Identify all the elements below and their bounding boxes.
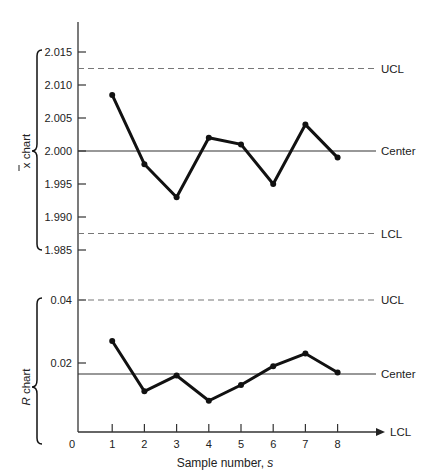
y-tick-label: 2.010 bbox=[44, 79, 72, 91]
control-chart: x chart R chart 2.0152.0102.0052.0001.99… bbox=[0, 0, 437, 475]
xbar-brace bbox=[32, 50, 42, 250]
data-point bbox=[109, 92, 115, 98]
data-point bbox=[270, 363, 276, 369]
svg-text:R chart: R chart bbox=[20, 368, 32, 406]
x-tick-label: 8 bbox=[335, 438, 341, 450]
data-point bbox=[109, 338, 115, 344]
svg-text:x chart: x chart bbox=[20, 133, 32, 168]
xbar-chart: 2.0152.0102.0052.0001.9951.9901.985UCLCe… bbox=[44, 46, 415, 256]
y-tick-label: 2.000 bbox=[44, 145, 72, 157]
y-tick-label: 0.04 bbox=[51, 294, 72, 306]
r-brace bbox=[32, 298, 42, 444]
y-tick-label: 1.990 bbox=[44, 211, 72, 223]
y-tick-label: 1.985 bbox=[44, 244, 72, 256]
center-label: Center bbox=[381, 368, 416, 380]
y-tick-label: 2.015 bbox=[44, 46, 72, 58]
data-point bbox=[302, 351, 308, 357]
xbar-chart-label: x chart bbox=[19, 133, 32, 171]
data-point bbox=[174, 194, 180, 200]
data-line bbox=[112, 95, 337, 197]
x-tick-label: 3 bbox=[174, 438, 180, 450]
r-chart-label: R chart bbox=[20, 368, 32, 406]
data-point bbox=[141, 161, 147, 167]
data-point bbox=[302, 122, 308, 128]
ucl-label: UCL bbox=[381, 294, 405, 306]
x-tick-label: 2 bbox=[141, 438, 147, 450]
data-point bbox=[238, 382, 244, 388]
data-point bbox=[238, 141, 244, 147]
r-chart: 0.040.02UCLCenterLCL12345678 bbox=[51, 294, 416, 450]
x-axis-arrow-icon bbox=[376, 428, 385, 436]
x-tick-label: 7 bbox=[302, 438, 308, 450]
lcl-label: LCL bbox=[390, 426, 412, 438]
data-point bbox=[141, 388, 147, 394]
y-tick-label: 2.005 bbox=[44, 112, 72, 124]
center-label: Center bbox=[381, 145, 416, 157]
data-point bbox=[335, 369, 341, 375]
data-point bbox=[206, 135, 212, 141]
x-tick-label: 4 bbox=[206, 438, 212, 450]
x-tick-label: 1 bbox=[109, 438, 115, 450]
data-point bbox=[206, 398, 212, 404]
x-tick-label: 5 bbox=[238, 438, 244, 450]
x-axis-title: Sample number, s bbox=[177, 456, 274, 470]
data-point bbox=[335, 155, 341, 161]
data-point bbox=[270, 181, 276, 187]
origin-label: 0 bbox=[69, 438, 75, 450]
y-tick-label: 0.02 bbox=[51, 357, 72, 369]
x-tick-label: 6 bbox=[270, 438, 276, 450]
lcl-label: LCL bbox=[381, 228, 403, 240]
y-tick-label: 1.995 bbox=[44, 178, 72, 190]
ucl-label: UCL bbox=[381, 63, 405, 75]
data-point bbox=[174, 373, 180, 379]
